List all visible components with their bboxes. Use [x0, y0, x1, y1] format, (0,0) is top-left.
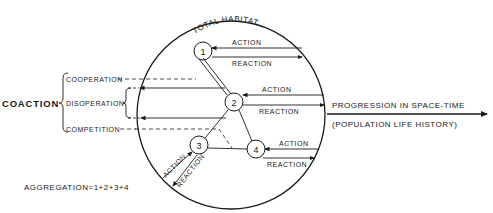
progression-label: PROGRESSION IN SPACE-TIME: [332, 101, 465, 110]
svg-text:1: 1: [200, 47, 205, 57]
node-2: 2: [225, 93, 243, 111]
competition-dashed-path: [135, 129, 232, 148]
habitat-diagram: TOTAL HABITAT 1 2 3 4 ACTION REACTION AC…: [0, 0, 493, 213]
svg-text:4: 4: [253, 145, 258, 155]
node1-action-label: ACTION: [232, 39, 261, 46]
node1-reaction-label: REACTION: [232, 60, 272, 67]
cooperation-label: COOPERATION: [66, 76, 123, 83]
link-2-3: [205, 110, 228, 138]
node4-action-label: ACTION: [279, 140, 308, 147]
aggregation-label: AGGREGATION=1+2+3+4: [24, 183, 129, 192]
population-life-history-label: (POPULATION LIFE HISTORY): [332, 120, 457, 129]
node-3: 3: [190, 136, 208, 154]
node2-action-label: ACTION: [262, 86, 291, 93]
node-4: 4: [247, 140, 265, 158]
link-3-4: [208, 148, 247, 149]
total-habitat-circle: [137, 21, 325, 209]
node-1: 1: [194, 42, 212, 60]
svg-text:2: 2: [231, 98, 236, 108]
total-habitat-label: TOTAL HABITAT: [191, 14, 260, 35]
competition-label: COMPETITION: [66, 126, 120, 133]
node4-reaction-label: REACTION: [267, 161, 307, 168]
node2-reaction-label: REACTION: [259, 108, 299, 115]
link-1-2: [199, 58, 231, 95]
svg-text:3: 3: [196, 141, 201, 151]
coaction-label: COACTION: [2, 98, 59, 109]
disoperation-label: DISOPERATION: [66, 100, 124, 107]
link-2-4: [239, 110, 252, 141]
